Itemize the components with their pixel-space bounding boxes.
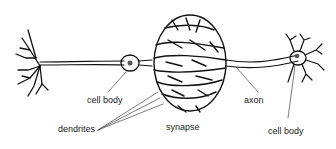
label-axon: axon <box>244 95 264 105</box>
synapse-cluster <box>154 15 226 112</box>
axon <box>226 55 298 62</box>
label-synapse: synapse <box>166 122 200 132</box>
label-dendrites: dendrites <box>58 124 95 134</box>
right-dendrite-tree <box>286 34 324 82</box>
label-cell-body-left: cell body <box>87 95 123 105</box>
label-cell-body-right: cell body <box>268 126 304 136</box>
left-dendrite-tree <box>16 30 48 96</box>
left-process <box>40 61 124 62</box>
